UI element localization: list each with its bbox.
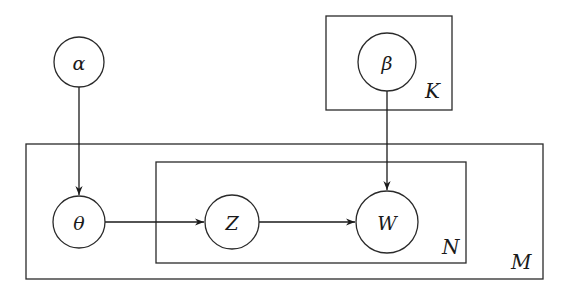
node-theta: θ bbox=[53, 196, 105, 248]
plate-m-label: M bbox=[510, 250, 532, 274]
plate-n-box bbox=[156, 162, 466, 263]
node-alpha-label: α bbox=[73, 52, 86, 74]
node-alpha: α bbox=[54, 37, 104, 87]
plate-n-label: N bbox=[441, 235, 461, 259]
node-z: Z bbox=[205, 195, 259, 249]
plate-n: N bbox=[156, 162, 466, 263]
plate-k-label: K bbox=[424, 79, 441, 103]
node-theta-label: θ bbox=[73, 212, 85, 234]
node-beta-label: β bbox=[381, 52, 393, 74]
node-beta: β bbox=[358, 33, 416, 91]
node-w-label: W bbox=[377, 212, 398, 234]
node-w: W bbox=[356, 191, 418, 253]
node-z-label: Z bbox=[224, 212, 239, 234]
plate-diagram: K M N α β θ Z W bbox=[0, 0, 568, 294]
